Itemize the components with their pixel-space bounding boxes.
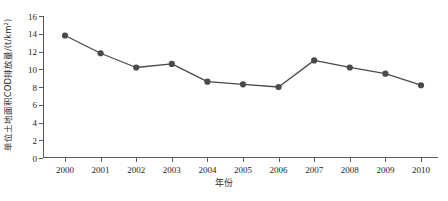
x-tick-mark [101, 158, 102, 162]
chart-container: 单位土地面积COD排放量/(t/km²) 0246810121416 20002… [0, 0, 448, 201]
x-tick-mark [172, 158, 173, 162]
y-tick-label: 6 [33, 100, 38, 110]
y-axis-title: 单位土地面积COD排放量/(t/km²) [0, 0, 14, 170]
y-tick-label: 4 [33, 118, 38, 128]
x-tick-label: 2003 [163, 165, 181, 175]
data-point-marker [418, 82, 424, 88]
data-point-marker [240, 81, 246, 87]
x-tick-mark [421, 158, 422, 162]
y-tick: 0 [43, 158, 44, 159]
y-tick-label: 8 [33, 83, 38, 93]
x-tick-mark [314, 158, 315, 162]
y-tick-label: 10 [28, 65, 37, 75]
x-tick-mark [279, 158, 280, 162]
y-tick-label: 12 [28, 47, 37, 57]
x-tick-mark [385, 158, 386, 162]
data-point-marker [347, 64, 353, 70]
x-tick-label: 2006 [270, 165, 288, 175]
data-point-marker [98, 50, 104, 56]
x-tick-label: 2009 [376, 165, 394, 175]
x-tick-label: 2007 [305, 165, 323, 175]
x-tick-label: 2005 [234, 165, 252, 175]
x-tick-mark [65, 158, 66, 162]
data-point-marker [311, 57, 317, 63]
y-tick-mark [39, 158, 43, 159]
x-tick-mark [350, 158, 351, 162]
y-tick-label: 2 [33, 136, 38, 146]
plot-area: 0246810121416 20002001200220032004200520… [43, 16, 438, 158]
data-point-marker [62, 32, 68, 38]
data-point-marker [169, 61, 175, 67]
data-point-marker [133, 64, 139, 70]
data-point-marker [382, 71, 388, 77]
y-tick-label: 14 [28, 29, 37, 39]
x-tick-label: 2002 [127, 165, 145, 175]
data-series-line [43, 16, 438, 158]
y-axis-title-text: 单位土地面积COD排放量/(t/km²) [1, 19, 13, 151]
y-tick-label: 16 [28, 12, 37, 22]
x-tick-mark [243, 158, 244, 162]
x-axis-title: 年份 [0, 176, 448, 189]
x-tick-label: 2010 [412, 165, 430, 175]
x-tick-label: 2008 [341, 165, 359, 175]
x-tick-label: 2004 [198, 165, 216, 175]
x-tick-mark [136, 158, 137, 162]
series-polyline [65, 36, 421, 87]
y-tick-label: 0 [33, 154, 38, 164]
data-point-marker [204, 79, 210, 85]
x-tick-label: 2001 [92, 165, 110, 175]
x-tick-label: 2000 [56, 165, 74, 175]
data-point-marker [276, 84, 282, 90]
x-tick-mark [207, 158, 208, 162]
